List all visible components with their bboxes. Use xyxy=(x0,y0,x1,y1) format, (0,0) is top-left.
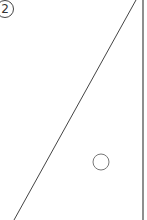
triangle-diagram xyxy=(0,0,147,220)
hypotenuse-line xyxy=(14,0,136,220)
figure-canvas xyxy=(0,0,147,220)
small-circle xyxy=(93,154,109,170)
